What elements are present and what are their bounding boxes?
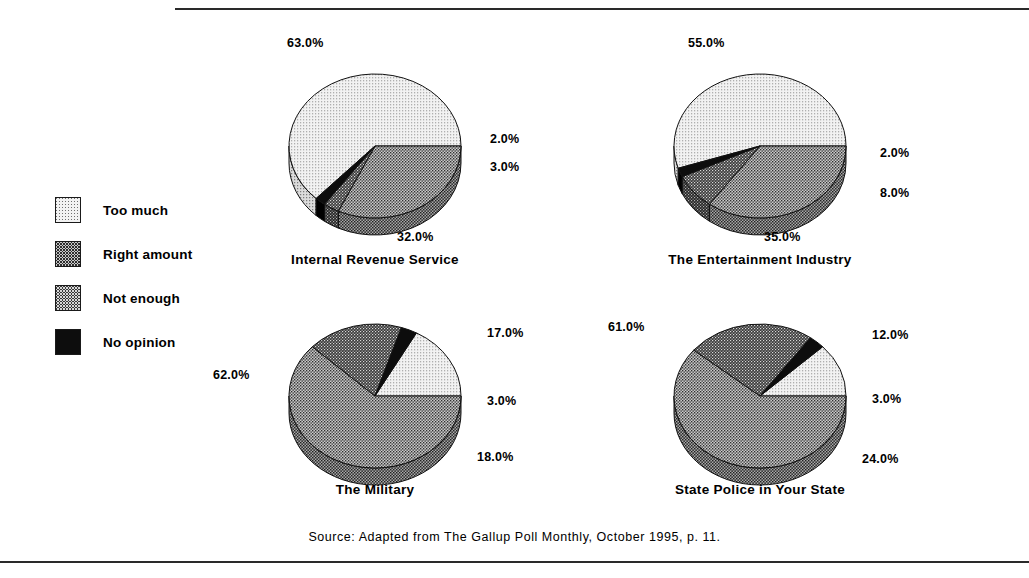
pie-panel: 12.0%61.0%24.0%3.0%State Police in Your … [640,310,930,560]
pie-chart [640,310,930,540]
pie-slice-percent-label: 32.0% [397,230,433,244]
pie-slice-percent-label: 2.0% [880,146,909,160]
pie-slice-percent-label: 55.0% [688,36,724,50]
legend-item: Not enough [55,276,255,320]
pie-panel-title: State Police in Your State [640,482,880,497]
pie-slice-percent-label: 18.0% [477,450,513,464]
source-note: Source: Adapted from The Gallup Poll Mon… [0,530,1029,544]
pie-panel-title: The Entertainment Industry [640,252,880,267]
legend-item-label: Right amount [103,247,192,262]
legend-item-label: No opinion [103,335,175,350]
pie-slice-percent-label: 35.0% [764,230,800,244]
pie-slice-percent-label: 2.0% [490,132,519,146]
pie-slice-percent-label: 3.0% [872,392,901,406]
pie-panel: 17.0%62.0%18.0%3.0%The Military [255,310,545,560]
legend-item: No opinion [55,320,255,364]
pie-slice-percent-label: 8.0% [880,186,909,200]
legend-item-label: Too much [103,203,168,218]
pie-panel: 55.0%35.0%8.0%2.0%The Entertainment Indu… [640,38,930,288]
pie-slice-percent-label: 62.0% [213,368,249,382]
pie-slice-percent-label: 24.0% [862,452,898,466]
figure-container: Too muchRight amountNot enoughNo opinion… [0,0,1029,578]
pie-panel: 63.0%32.0%3.0%2.0%Internal Revenue Servi… [255,38,545,288]
pie-slice-percent-label: 3.0% [490,160,519,174]
pie-chart [255,310,545,540]
legend-item-label: Not enough [103,291,180,306]
figure-top-rule [175,8,1029,10]
pie-slice-percent-label: 3.0% [487,394,516,408]
pie-slice-percent-label: 61.0% [608,320,644,334]
legend-swatch-too-much [55,197,81,223]
legend-swatch-not-enough [55,285,81,311]
legend-swatch-right-amount [55,241,81,267]
legend: Too muchRight amountNot enoughNo opinion [55,188,255,364]
pie-panel-title: The Military [255,482,495,497]
pie-panel-title: Internal Revenue Service [255,252,495,267]
legend-swatch-no-opinion [55,329,81,355]
legend-item: Too much [55,188,255,232]
pie-slice-percent-label: 17.0% [487,326,523,340]
pie-slice-percent-label: 63.0% [287,36,323,50]
figure-bottom-rule [0,561,1029,563]
legend-item: Right amount [55,232,255,276]
pie-slice-percent-label: 12.0% [872,328,908,342]
